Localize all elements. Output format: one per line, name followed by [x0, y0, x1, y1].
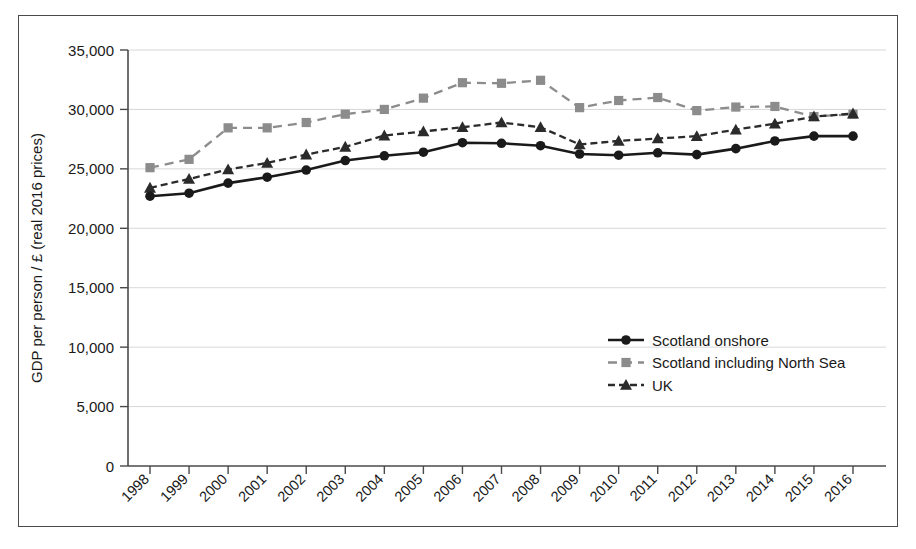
data-point-marker [223, 178, 233, 188]
data-point-marker [380, 105, 389, 114]
data-point-marker [302, 118, 311, 127]
data-point-marker [300, 149, 312, 160]
y-tick-label: 35,000 [68, 42, 114, 59]
x-tick-label: 2008 [509, 471, 543, 505]
x-tick-label: 2001 [235, 471, 269, 505]
data-point-marker [614, 96, 623, 105]
data-point-marker [340, 156, 350, 166]
data-point-marker [263, 123, 272, 132]
data-point-marker [731, 144, 741, 154]
data-point-marker [614, 150, 624, 160]
legend-label: UK [652, 377, 673, 394]
data-point-marker [535, 121, 547, 132]
x-tick-label: 2013 [704, 471, 738, 505]
x-tick-label: 2010 [587, 471, 621, 505]
data-point-marker [653, 148, 663, 158]
data-point-marker [731, 102, 740, 111]
figure: 05,00010,00015,00020,00025,00030,00035,0… [0, 0, 916, 549]
y-tick-label: 30,000 [68, 101, 114, 118]
data-point-marker [653, 93, 662, 102]
data-point-marker [458, 138, 468, 148]
data-point-marker [145, 191, 155, 201]
data-point-marker [536, 76, 545, 85]
x-tick-label: 2007 [469, 471, 503, 505]
data-point-marker [809, 131, 819, 141]
x-tick-label: 2012 [665, 471, 699, 505]
legend-label: Scotland including North Sea [652, 354, 846, 371]
data-point-marker [770, 102, 779, 111]
y-tick-label: 10,000 [68, 339, 114, 356]
data-point-marker [536, 141, 546, 151]
data-point-marker [184, 155, 193, 164]
data-point-marker [497, 139, 507, 149]
y-tick-label: 20,000 [68, 220, 114, 237]
y-axis-title: GDP per person / £ (real 2016 prices) [28, 133, 45, 383]
data-point-marker [730, 124, 742, 135]
data-point-marker [262, 172, 272, 182]
data-point-marker [692, 106, 701, 115]
data-point-marker [419, 147, 429, 157]
data-point-marker [301, 165, 311, 175]
x-tick-label: 2015 [782, 471, 816, 505]
gdp-per-person-line-chart: 05,00010,00015,00020,00025,00030,00035,0… [0, 0, 916, 549]
x-tick-label: 2000 [196, 471, 230, 505]
data-point-marker [419, 94, 428, 103]
x-tick-label: 1999 [157, 471, 191, 505]
legend-item[interactable]: Scotland onshore [608, 332, 769, 349]
data-point-marker [692, 150, 702, 160]
x-tick-label: 1998 [118, 471, 152, 505]
x-tick-label: 2009 [548, 471, 582, 505]
data-point-marker [184, 188, 194, 198]
x-tick-label: 2003 [313, 471, 347, 505]
data-point-marker [145, 163, 154, 172]
y-tick-label: 25,000 [68, 160, 114, 177]
x-tick-label: 2004 [352, 471, 386, 505]
data-point-marker [575, 149, 585, 159]
y-tick-label: 0 [106, 458, 114, 475]
axes: 05,00010,00015,00020,00025,00030,00035,0… [68, 42, 886, 505]
data-point-marker [770, 136, 780, 146]
data-point-marker [621, 358, 630, 367]
x-tick-label: 2005 [391, 471, 425, 505]
data-point-marker [575, 103, 584, 112]
x-tick-label: 2016 [821, 471, 855, 505]
data-point-marker [458, 78, 467, 87]
legend-item[interactable]: Scotland including North Sea [608, 354, 846, 371]
y-tick-label: 5,000 [76, 398, 114, 415]
data-point-marker [380, 151, 390, 161]
x-tick-label: 2011 [626, 471, 659, 504]
data-point-marker [341, 110, 350, 119]
x-tick-label: 2006 [430, 471, 464, 505]
y-tick-label: 15,000 [68, 279, 114, 296]
legend: Scotland onshoreScotland including North… [608, 332, 846, 394]
data-point-marker [224, 123, 233, 132]
data-point-marker [848, 131, 858, 141]
x-tick-label: 2014 [743, 471, 777, 505]
data-point-marker [497, 79, 506, 88]
legend-label: Scotland onshore [652, 332, 769, 349]
data-point-marker [621, 335, 631, 345]
legend-item[interactable]: UK [608, 377, 673, 394]
x-tick-label: 2002 [274, 471, 308, 505]
